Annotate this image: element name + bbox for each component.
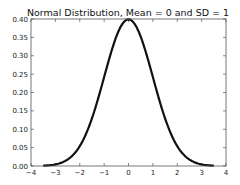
- x-tick-label: −1: [99, 169, 109, 177]
- y-tick-label: 0.35: [12, 34, 28, 42]
- y-tick-label: 0.30: [12, 52, 28, 60]
- y-axis-ticks: 0.000.050.100.150.200.250.300.350.40: [12, 16, 226, 171]
- y-tick-label: 0.25: [12, 71, 28, 79]
- y-tick-label: 0.05: [12, 144, 28, 152]
- x-tick-label: −3: [50, 169, 60, 177]
- y-tick-label: 0.10: [12, 126, 28, 134]
- x-tick-label: −2: [75, 169, 85, 177]
- x-tick-label: 0: [126, 169, 130, 177]
- chart-title: Normal Distribution, Mean = 0 and SD = 1: [27, 7, 229, 18]
- plot-frame: [31, 19, 226, 166]
- x-tick-label: 3: [199, 169, 203, 177]
- x-tick-label: −4: [26, 169, 37, 177]
- pdf-curve: [43, 19, 214, 165]
- x-tick-label: 4: [224, 169, 229, 177]
- y-tick-label: 0.15: [12, 107, 28, 115]
- x-axis-ticks: −4−3−2−101234: [26, 19, 229, 177]
- y-tick-label: 0.20: [12, 89, 28, 97]
- x-tick-label: 1: [151, 169, 155, 177]
- y-tick-label: 0.40: [12, 16, 28, 24]
- x-tick-label: 2: [175, 169, 179, 177]
- normal-distribution-chart: Normal Distribution, Mean = 0 and SD = 1…: [0, 0, 240, 185]
